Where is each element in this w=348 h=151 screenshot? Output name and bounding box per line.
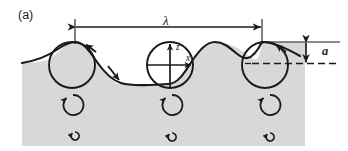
amplitude-label: a	[322, 45, 328, 58]
wavelength-label: λ	[163, 14, 169, 27]
panel-label: (a)	[18, 9, 33, 22]
diagram-canvas	[0, 0, 348, 151]
z-axis-label: z	[176, 43, 180, 53]
water-body	[22, 42, 305, 146]
x-axis-label: x	[186, 54, 190, 64]
wave-orbital-diagram: (a) λ a z x	[0, 0, 348, 151]
